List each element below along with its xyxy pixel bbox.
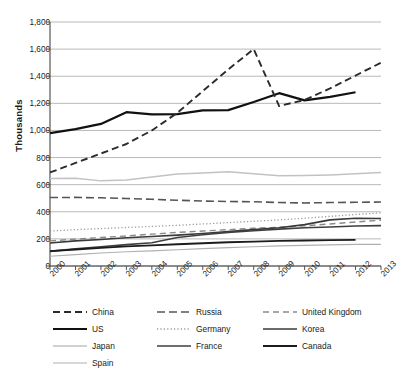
- legend-label: Korea: [302, 324, 324, 334]
- legend-item-russia[interactable]: Russia: [156, 307, 262, 317]
- x-tick-label: 2010: [303, 259, 322, 278]
- legend-label: United Kingdom: [302, 307, 362, 317]
- x-tick-label: 2009: [277, 259, 296, 278]
- legend-label: Germany: [196, 324, 230, 334]
- x-tick-label: 2002: [99, 259, 118, 278]
- x-tick-label: 2004: [150, 259, 169, 278]
- legend-item-us[interactable]: US: [52, 324, 156, 334]
- legend-item-china[interactable]: China: [52, 307, 156, 317]
- legend-item-spain[interactable]: Spain: [52, 358, 156, 368]
- legend-swatch-icon: [262, 324, 298, 334]
- legend-label: Spain: [92, 358, 113, 368]
- legend-item-japan[interactable]: Japan: [52, 341, 156, 351]
- legend-label: Russia: [196, 307, 222, 317]
- x-tick-label: 2011: [328, 260, 347, 279]
- legend-label: Canada: [302, 341, 331, 351]
- x-tick-label: 2006: [201, 259, 220, 278]
- legend-label: US: [92, 324, 104, 334]
- legend-swatch-icon: [262, 341, 298, 351]
- legend-item-united-kingdom[interactable]: United Kingdom: [262, 307, 390, 317]
- legend-item-france[interactable]: France: [156, 341, 262, 351]
- chart-legend: ChinaRussiaUnited KingdomUSGermanyKoreaJ…: [52, 303, 390, 371]
- x-tick-label: 2005: [175, 259, 194, 278]
- legend-item-canada[interactable]: Canada: [262, 341, 390, 351]
- x-tick-label: 2000: [48, 259, 67, 278]
- legend-item-germany[interactable]: Germany: [156, 324, 262, 334]
- x-tick-label: 2007: [226, 259, 245, 278]
- legend-label: France: [196, 341, 222, 351]
- legend-swatch-icon: [52, 307, 88, 317]
- x-tick-label: 2001: [73, 259, 92, 278]
- legend-swatch-icon: [262, 307, 298, 317]
- x-tick-label: 2012: [354, 259, 373, 278]
- legend-swatch-icon: [52, 358, 88, 368]
- legend-swatch-icon: [156, 341, 192, 351]
- legend-swatch-icon: [52, 341, 88, 351]
- legend-swatch-icon: [156, 324, 192, 334]
- x-tick-label: 2013: [379, 259, 398, 278]
- legend-item-korea[interactable]: Korea: [262, 324, 390, 334]
- legend-label: Japan: [92, 341, 115, 351]
- legend-swatch-icon: [156, 307, 192, 317]
- legend-label: China: [92, 307, 114, 317]
- x-tick-label: 2008: [252, 259, 271, 278]
- x-tick-label: 2003: [124, 259, 143, 278]
- legend-swatch-icon: [52, 324, 88, 334]
